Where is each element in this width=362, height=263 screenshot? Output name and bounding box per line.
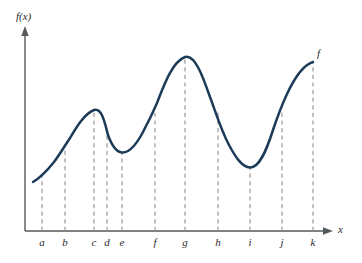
- axes-group: [21, 26, 333, 235]
- tick-label-k: k: [311, 237, 316, 248]
- tick-label-d: d: [104, 237, 110, 248]
- x-axis-label: x: [338, 224, 343, 235]
- dashed-guide-lines: [42, 57, 313, 231]
- y-axis-arrowhead: [21, 26, 28, 36]
- tick-label-h: h: [215, 237, 221, 248]
- plot-canvas: [0, 0, 362, 263]
- tick-label-f: f: [153, 237, 156, 248]
- tick-label-c: c: [92, 237, 97, 248]
- tick-label-g: g: [182, 237, 188, 248]
- x-axis-arrowhead: [323, 227, 333, 234]
- tick-label-i: i: [248, 237, 251, 248]
- function-graph-figure: f(x) x f a b c d e f g h i j k: [0, 0, 362, 263]
- tick-label-j: j: [280, 237, 283, 248]
- curve-name-label: f: [317, 48, 320, 59]
- function-curve: [33, 57, 313, 182]
- tick-label-a: a: [39, 237, 45, 248]
- tick-label-e: e: [120, 237, 125, 248]
- tick-label-b: b: [62, 237, 68, 248]
- y-axis-label: f(x): [16, 11, 31, 22]
